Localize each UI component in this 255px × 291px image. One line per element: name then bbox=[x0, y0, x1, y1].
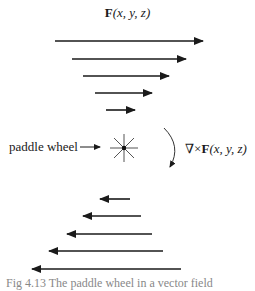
top-vector-arrows bbox=[55, 41, 203, 110]
field-title: F(x, y, z) bbox=[0, 5, 255, 21]
paddle-wheel-icon bbox=[110, 134, 138, 162]
figure-caption: Fig 4.13 The paddle wheel in a vector fi… bbox=[6, 276, 213, 291]
bottom-vector-arrows bbox=[32, 199, 181, 269]
curl-label: ∇×F(x, y, z) bbox=[185, 141, 247, 157]
paddle-wheel-label: paddle wheel bbox=[9, 139, 78, 155]
rotation-arrow-icon bbox=[164, 128, 175, 167]
